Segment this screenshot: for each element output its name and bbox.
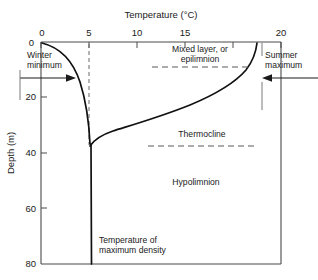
y-tick-label-0: 0 <box>29 37 34 48</box>
winter-minimum-label-line2: minimum <box>27 60 62 70</box>
x-tick-label-10: 10 <box>132 27 143 38</box>
y-tick-label-80: 80 <box>25 258 36 269</box>
max-density-label-line1: Temperature of <box>99 235 157 245</box>
thermal-stratification-figure: Temperature (°C) 0 5 10 15 20 Depth (m) <box>0 0 318 280</box>
x-tick-label-15: 15 <box>180 27 191 38</box>
x-tick-label-20: 20 <box>276 27 287 38</box>
winter-minimum-label-line1: Winter <box>27 50 52 60</box>
x-tick-label-5: 5 <box>86 27 91 38</box>
plot-canvas: Temperature (°C) 0 5 10 15 20 Depth (m) <box>0 0 318 280</box>
summer-maximum-arrow-head <box>262 74 272 82</box>
x-axis-title: Temperature (°C) <box>125 9 198 20</box>
x-tick-label-0: 0 <box>39 27 44 38</box>
summer-maximum-label-line1: Summer <box>265 50 298 60</box>
hypolimnion-region-label: Hypolimnion <box>172 177 220 187</box>
mixed-layer-label-line2: epilimnion <box>181 54 220 64</box>
max-density-annotation: Temperature of maximum density <box>99 235 167 255</box>
winter-minimum-arrow-head <box>66 74 76 82</box>
y-tick-label-40: 40 <box>25 147 36 158</box>
mixed-layer-label-line1: Mixed layer, or <box>172 44 228 54</box>
summer-maximum-annotation: Summer maximum <box>262 43 318 110</box>
thermocline-region-label: Thermocline <box>178 129 226 139</box>
deep-isothermal-curve <box>91 144 92 264</box>
summer-profile-curve <box>90 43 257 146</box>
mixed-layer-region-label: Mixed layer, or epilimnion <box>172 44 228 64</box>
y-tick-label-60: 60 <box>25 203 36 214</box>
summer-maximum-label-line2: maximum <box>265 60 302 70</box>
x-tick-labels: 0 5 10 15 20 <box>39 27 286 38</box>
y-tick-label-20: 20 <box>25 91 36 102</box>
y-tick-labels: 0 20 40 60 80 <box>25 37 36 269</box>
max-density-label-line2: maximum density <box>99 245 167 255</box>
y-axis-title: Depth (m) <box>5 132 16 174</box>
x-axis-ticks <box>41 42 281 48</box>
y-axis-ticks <box>41 97 47 208</box>
